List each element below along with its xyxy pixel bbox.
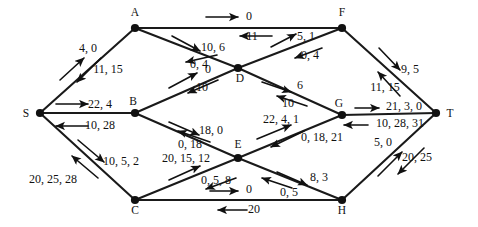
lbl-b-e-up: 18, 0 xyxy=(199,123,223,137)
node-label-a: A xyxy=(131,6,140,18)
node-label-c: C xyxy=(131,204,139,216)
lbl-h-t-down: 20, 25 xyxy=(402,150,432,164)
arw-d-f-up-icon xyxy=(271,34,296,47)
lbl-s-c-up: 20, 25, 28 xyxy=(29,172,77,186)
arw-b-d-up-icon xyxy=(169,73,197,88)
lbl-c-h-up: 0 xyxy=(246,182,252,196)
node-label-h: H xyxy=(338,204,346,216)
node-a[interactable] xyxy=(131,24,139,32)
lbl-a-f-up: 0 xyxy=(246,9,252,23)
lbl-f-t-right: 9, 5 xyxy=(401,62,419,76)
lbl-a-d-up: 10, 6 xyxy=(201,40,225,54)
arw-f-t-right-icon xyxy=(379,48,400,70)
lbl-s-c-down: 10, 5, 2 xyxy=(103,154,139,168)
lbl-d-g-down: 10 xyxy=(282,96,294,110)
lbl-f-t-left: 11, 15 xyxy=(370,80,400,94)
node-t[interactable] xyxy=(432,109,440,117)
node-label-t: T xyxy=(446,107,453,119)
lbl-c-e-up: 20, 15, 12 xyxy=(162,151,210,165)
lbl-d-f-up: 5, 1 xyxy=(297,29,315,43)
arw-e-g-down-icon xyxy=(271,131,304,147)
lbl-h-t-up: 5, 0 xyxy=(374,135,392,149)
edges-layer xyxy=(40,28,436,200)
lbl-s-a-up: 4, 0 xyxy=(79,41,97,55)
node-label-d: D xyxy=(236,72,244,84)
lbl-c-h-down: 20 xyxy=(248,202,260,216)
lbl-e-g-down: 0, 18, 21 xyxy=(301,130,343,144)
lbl-a-f-down: 11 xyxy=(246,29,258,43)
arw-e-h-up-icon xyxy=(277,172,307,185)
node-c[interactable] xyxy=(131,196,139,204)
lbl-g-t-up: 21, 3, 0 xyxy=(386,99,422,113)
lbl-g-t-down: 10, 28, 31 xyxy=(376,116,424,130)
edge-g-t xyxy=(342,113,436,115)
lbl-b-d-down: 10 xyxy=(196,80,208,94)
lbl-s-b-up: 22, 4 xyxy=(88,97,112,111)
lbl-c-e-down: 0, 5, 8 xyxy=(201,173,231,187)
lbl-e-h-up: 8, 3 xyxy=(310,170,328,184)
lbl-d-f-down: 0, 4 xyxy=(301,48,319,62)
node-label-f: F xyxy=(339,6,345,18)
arw-c-e-up-icon xyxy=(169,166,200,180)
node-label-e: E xyxy=(234,138,241,150)
arw-e-g-up-icon xyxy=(257,125,291,139)
diagram-canvas: AFDSBGTECH 4, 011, 1522, 410, 2810, 5, 2… xyxy=(0,0,478,227)
lbl-s-b-down: 10, 28 xyxy=(85,118,115,132)
edge-b-d xyxy=(135,68,238,113)
lbl-d-g-up: 6 xyxy=(297,78,303,92)
node-label-b: B xyxy=(129,95,137,107)
node-s[interactable] xyxy=(36,109,44,117)
network-flow-graph: AFDSBGTECH 4, 011, 1522, 410, 2810, 5, 2… xyxy=(0,0,478,227)
lbl-s-a-down: 11, 15 xyxy=(93,62,123,76)
lbl-b-e-down: 0, 18 xyxy=(178,137,202,151)
node-f[interactable] xyxy=(338,24,346,32)
lbl-e-g-up: 22, 4, 1 xyxy=(263,112,299,126)
node-h[interactable] xyxy=(338,196,346,204)
node-b[interactable] xyxy=(131,109,139,117)
lbl-e-h-down: 0, 5 xyxy=(280,185,298,199)
node-g[interactable] xyxy=(338,111,346,119)
lbl-b-d-up: 0 xyxy=(205,62,211,76)
node-e[interactable] xyxy=(234,154,242,162)
node-d[interactable] xyxy=(234,64,242,72)
node-label-s: S xyxy=(23,107,29,119)
node-label-g: G xyxy=(335,97,343,109)
arw-d-g-up-icon xyxy=(262,82,291,92)
